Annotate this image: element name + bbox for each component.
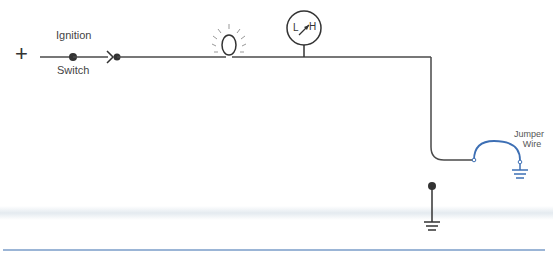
jumper-label-bottom: Wire xyxy=(512,139,552,149)
switch-label: Switch xyxy=(57,64,89,76)
lamp-icon xyxy=(212,24,246,55)
battery-positive-symbol: + xyxy=(15,43,28,65)
gauge-icon xyxy=(287,11,321,57)
sender-ground-icon xyxy=(424,182,440,230)
wire-segment xyxy=(431,57,473,160)
ignition-label: Ignition xyxy=(56,29,91,41)
gauge-low-label: L xyxy=(293,22,299,33)
circuit-diagram: + Ignition Switch L H Jumper Wire xyxy=(0,0,553,259)
gauge-high-label: H xyxy=(309,21,316,32)
jumper-label-top: Jumper xyxy=(509,129,549,139)
